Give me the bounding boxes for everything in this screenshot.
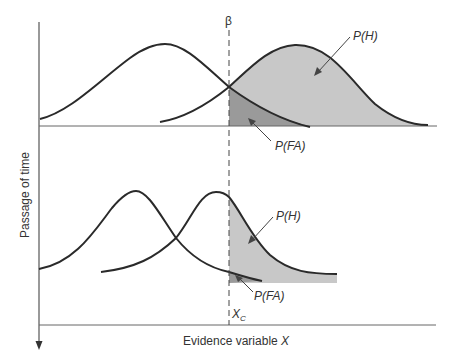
x-axis-label: Evidence variable X: [183, 334, 290, 348]
beta-label: β: [225, 14, 232, 28]
y-axis-label: Passage of time: [18, 152, 32, 238]
criterion-label: XC: [231, 307, 246, 323]
bottom-signal-curve: [101, 192, 337, 274]
signal-detection-diagram: P(H) P(FA) P(H) P(FA) β XC Evidence vari…: [0, 0, 460, 360]
bottom-panel: P(H) P(FA): [39, 191, 337, 303]
top-hit-label: P(H): [353, 29, 378, 43]
top-fa-label: P(FA): [275, 139, 305, 153]
top-panel: P(H) P(FA): [39, 29, 437, 153]
arrow-down-icon: [36, 341, 43, 350]
bottom-hit-label: P(H): [276, 209, 301, 223]
time-axis: [36, 22, 43, 350]
bottom-fa-label: P(FA): [254, 289, 284, 303]
bottom-hit-pointer: [252, 217, 273, 240]
